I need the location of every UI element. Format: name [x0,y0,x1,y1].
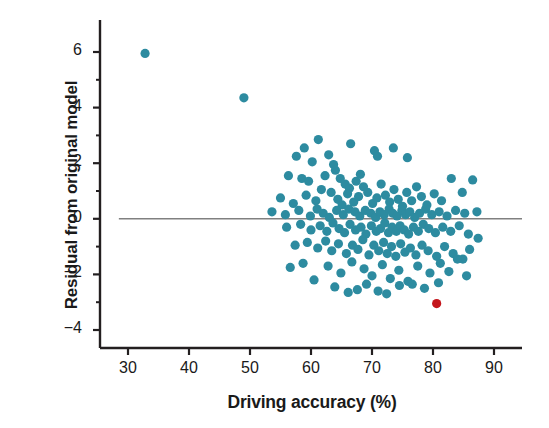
data-point-players [306,211,315,220]
data-point-players [364,250,373,259]
data-point-players [308,157,317,166]
data-point-players [438,223,447,232]
data-point-players [323,261,332,270]
data-point-players [387,242,396,251]
data-point-players [396,239,405,248]
data-point-players [331,166,340,175]
data-point-players [320,171,329,180]
data-point-players [440,242,449,251]
data-point-players [359,264,368,273]
data-point-players [465,245,474,254]
data-point-players [435,207,444,216]
data-point-players [431,228,440,237]
data-point-players [402,188,411,197]
data-point-players [389,185,398,194]
data-point-players [372,193,381,202]
data-point-players [407,196,416,205]
data-point-players [411,250,420,259]
data-point-players [330,282,339,291]
data-point-players [374,286,383,295]
data-point-players [298,259,307,268]
data-point-players [451,206,460,215]
data-point-players [309,275,318,284]
data-point-players [284,171,293,180]
data-point-players [389,143,398,152]
data-point-players [455,221,464,230]
data-point-players [444,267,453,276]
data-point-players [324,150,333,159]
data-point-players [460,209,469,218]
data-point-players [453,255,462,264]
data-point-players [442,211,451,220]
data-point-players [321,236,330,245]
y-axis-title: Residual from original model [62,35,82,355]
data-point-players [292,152,301,161]
data-point-players [363,188,372,197]
data-point-players [291,241,300,250]
data-points-layer [140,49,482,308]
data-point-players [239,93,248,102]
data-point-players [362,280,371,289]
data-point-players [322,227,331,236]
data-point-players [303,238,312,247]
data-point-players [436,259,445,268]
y-tick-label: −2 [42,263,82,281]
data-point-players [391,252,400,261]
scatter-plot-figure: Residual from original model Driving acc… [0,0,549,428]
data-point-players [458,188,467,197]
data-point-players [336,268,345,277]
data-point-players [281,210,290,219]
data-point-players [296,220,305,229]
data-point-players [395,281,404,290]
data-point-players [379,238,388,247]
data-point-players [353,285,362,294]
data-point-players [347,257,356,266]
x-axis-title: Driving accuracy (%) [100,392,524,413]
data-point-players [300,143,309,152]
data-point-players [346,139,355,148]
data-point-players [434,278,443,287]
data-point-players [412,182,421,191]
data-point-players [294,206,303,215]
data-point-players [356,170,365,179]
y-tick-label: −4 [42,319,82,337]
data-point-players [334,239,343,248]
data-point-players [377,179,386,188]
data-point-players [267,207,276,216]
data-point-players [306,225,315,234]
data-point-players [302,191,311,200]
y-tick-label: 4 [42,97,82,115]
data-point-players [358,235,367,244]
y-tick-label: 0 [42,208,82,226]
data-point-players [413,261,422,270]
data-point-players [286,263,295,272]
data-point-players [437,196,446,205]
data-point-players [374,246,383,255]
x-tick-label: 70 [352,359,392,377]
data-point-players [340,228,349,237]
data-point-players [472,207,481,216]
data-point-players [282,223,291,232]
x-tick-label: 80 [413,359,453,377]
data-point-players [140,49,149,58]
data-point-players [327,188,336,197]
data-point-highlighted-player [432,299,441,308]
x-tick-label: 60 [291,359,331,377]
data-point-players [430,189,439,198]
data-point-players [373,152,382,161]
data-point-players [317,185,326,194]
data-point-players [462,271,471,280]
data-point-players [367,271,376,280]
data-point-players [394,266,403,275]
data-point-players [353,245,362,254]
x-tick-label: 40 [169,359,209,377]
data-point-players [446,227,455,236]
data-point-players [425,268,434,277]
data-point-players [378,260,387,269]
data-point-players [313,243,322,252]
data-point-players [474,234,483,243]
x-tick-label: 30 [108,359,148,377]
data-point-players [464,229,473,238]
data-point-players [327,246,336,255]
data-point-players [420,284,429,293]
